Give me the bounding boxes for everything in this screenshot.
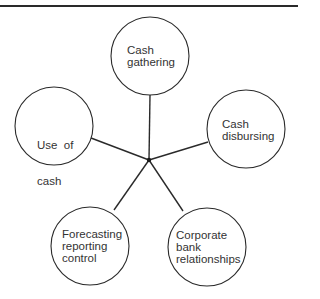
label-line: Cash [127, 44, 175, 56]
spoke-corporate-bank [149, 160, 183, 211]
label-line: disbursing [222, 130, 274, 142]
spoke-cash-gathering [149, 95, 150, 160]
label-corporate-bank-relationships: Corporate bank relationships [176, 229, 241, 265]
label-line: Forecasting [62, 228, 122, 240]
spokes [91, 95, 208, 211]
spoke-forecasting [114, 160, 149, 210]
label-line: Corporate [176, 229, 241, 241]
hub-point [147, 158, 151, 162]
label-use-of-cash: Use of cash [37, 115, 73, 199]
spoke-use-of-cash [91, 138, 149, 160]
label-line: Cash [222, 118, 274, 130]
label-line: gathering [127, 56, 175, 68]
label-cash-gathering: Cash gathering [127, 44, 175, 68]
spoke-cash-disbursing [149, 142, 208, 160]
label-line: bank [176, 241, 241, 253]
label-line: reporting [62, 240, 122, 252]
label-line: relationships [176, 253, 241, 265]
label-line: Use of [37, 139, 73, 151]
label-cash-disbursing: Cash disbursing [222, 118, 274, 142]
label-forecasting-reporting-control: Forecasting reporting control [62, 228, 122, 264]
label-line: control [62, 252, 122, 264]
label-line: cash [37, 175, 73, 187]
